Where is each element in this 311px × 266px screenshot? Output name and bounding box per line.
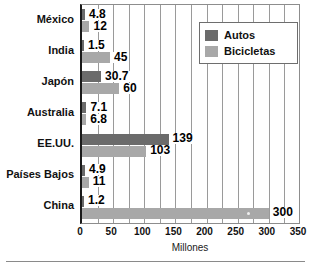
bar-row: 7.16.8 (82, 98, 299, 129)
category-label-1: México (37, 13, 74, 25)
bar-bicicletas (82, 114, 86, 125)
bar-autos (82, 102, 86, 113)
bar-value-label: 103 (148, 145, 172, 156)
bar-value-label: 45 (112, 52, 129, 63)
legend-swatch-bicicletas (205, 46, 218, 57)
legend-item-bicicletas: Bicicletas (205, 43, 292, 59)
x-tick-50: 50 (106, 226, 117, 237)
category-label-6: Países Bajos (6, 168, 74, 180)
legend-item-autos: Autos (205, 27, 292, 43)
bar-autos (82, 196, 84, 207)
bar-bicicletas (82, 146, 146, 157)
legend-label-autos: Autos (224, 29, 255, 41)
category-axis-labels: MéxicoIndiaJapónAustraliaEE.UU.Países Ba… (0, 4, 78, 224)
bar-bicicletas (82, 83, 119, 94)
bar-chart: MéxicoIndiaJapónAustraliaEE.UU.Países Ba… (0, 0, 311, 266)
bar-artifact-dot (247, 212, 250, 215)
footer-rule (6, 261, 305, 262)
bar-value-label: 6.8 (88, 114, 109, 125)
bar-value-label: 300 (271, 207, 295, 218)
bar-row: 4.911 (82, 161, 299, 192)
legend-label-bicicletas: Bicicletas (224, 45, 275, 57)
bar-bicicletas (82, 208, 269, 219)
category-label-5: EE.UU. (37, 137, 74, 149)
bar-value-label: 1.2 (86, 195, 107, 206)
bar-autos (82, 71, 101, 82)
x-tick-200: 200 (196, 226, 213, 237)
bar-row: 30.760 (82, 67, 299, 98)
category-label-4: Australia (27, 106, 74, 118)
bar-autos (82, 165, 85, 176)
x-tick-250: 250 (227, 226, 244, 237)
bar-value-label: 60 (121, 83, 138, 94)
bar-row: 1.2300 (82, 192, 299, 223)
x-tick-150: 150 (165, 226, 182, 237)
category-label-7: China (43, 199, 74, 211)
category-label-2: India (48, 44, 74, 56)
x-tick-100: 100 (134, 226, 151, 237)
bar-row: 139103 (82, 130, 299, 161)
x-axis-ticks: 050100150200250300350 (80, 226, 300, 242)
bar-bicicletas (82, 52, 110, 63)
bar-bicicletas (82, 21, 89, 32)
legend-swatch-autos (205, 30, 218, 41)
bar-value-label: 12 (91, 21, 108, 32)
bar-autos (82, 40, 84, 51)
legend: Autos Bicicletas (199, 22, 298, 64)
bar-value-label: 4.8 (87, 9, 108, 20)
bar-value-label: 11 (91, 176, 108, 187)
x-tick-300: 300 (259, 226, 276, 237)
bar-bicicletas (82, 177, 89, 188)
x-tick-0: 0 (77, 226, 83, 237)
bar-autos (82, 9, 85, 20)
x-tick-350: 350 (290, 226, 307, 237)
bar-value-label: 1.5 (86, 40, 107, 51)
category-label-3: Japón (42, 75, 74, 87)
bar-value-label: 139 (171, 133, 195, 144)
x-axis-title: Millones (80, 242, 300, 253)
